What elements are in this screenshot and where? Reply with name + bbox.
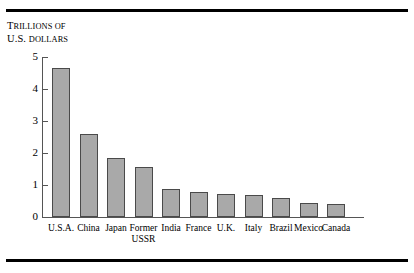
- y-tick-label: 3: [20, 115, 38, 126]
- bar: [245, 195, 263, 217]
- bar: [80, 134, 98, 217]
- y-tick-mark: [42, 217, 48, 218]
- bar: [135, 167, 153, 217]
- bar: [217, 194, 235, 217]
- y-tick-mark: [42, 57, 48, 58]
- x-tick-label-line: Canada: [322, 223, 351, 233]
- bar: [272, 198, 290, 217]
- x-axis-line: [42, 217, 364, 218]
- chart-figure: TRILLIONS OF U.S. DOLLARS 012345 U.S.A.C…: [0, 0, 414, 273]
- bar: [190, 192, 208, 217]
- bar: [327, 204, 345, 217]
- y-tick-mark: [42, 185, 48, 186]
- y-tick-mark: [42, 121, 48, 122]
- y-tick-label: 2: [20, 147, 38, 158]
- plot-area: 012345 U.S.A.ChinaJapanFormerUSSRIndiaFr…: [0, 0, 414, 273]
- y-tick-mark: [42, 89, 48, 90]
- y-tick-label: 4: [20, 83, 38, 94]
- y-tick-label: 5: [20, 51, 38, 62]
- bar: [162, 189, 180, 217]
- bar: [300, 203, 318, 217]
- y-tick-label: 0: [20, 211, 38, 222]
- bar: [52, 68, 70, 217]
- bar: [107, 158, 125, 217]
- y-tick-label: 1: [20, 179, 38, 190]
- x-tick-label-line: USSR: [119, 234, 169, 245]
- x-tick-label: Canada: [311, 223, 361, 234]
- y-tick-mark: [42, 153, 48, 154]
- y-axis-line: [42, 57, 43, 218]
